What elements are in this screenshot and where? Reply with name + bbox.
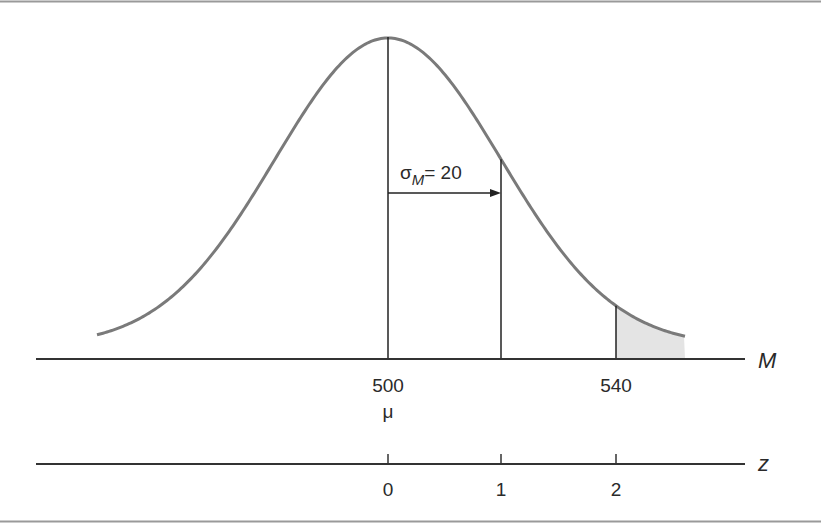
mu-label: μ: [383, 401, 394, 422]
sd-label: σM= 20: [400, 162, 462, 188]
normal-curve: [97, 38, 685, 336]
sd-arrow: [388, 189, 501, 197]
z-axis-label: z: [757, 451, 769, 476]
m-tick-540: 540: [600, 375, 632, 396]
z-tick-0: 0: [383, 479, 394, 500]
z-tick-2: 2: [611, 479, 622, 500]
m-tick-500: 500: [372, 375, 404, 396]
z-tick-1: 1: [496, 479, 507, 500]
m-axis-label: M: [758, 348, 777, 373]
normal-distribution-diagram: σM= 20 M 500 540 μ z 0 1 2: [0, 0, 821, 530]
